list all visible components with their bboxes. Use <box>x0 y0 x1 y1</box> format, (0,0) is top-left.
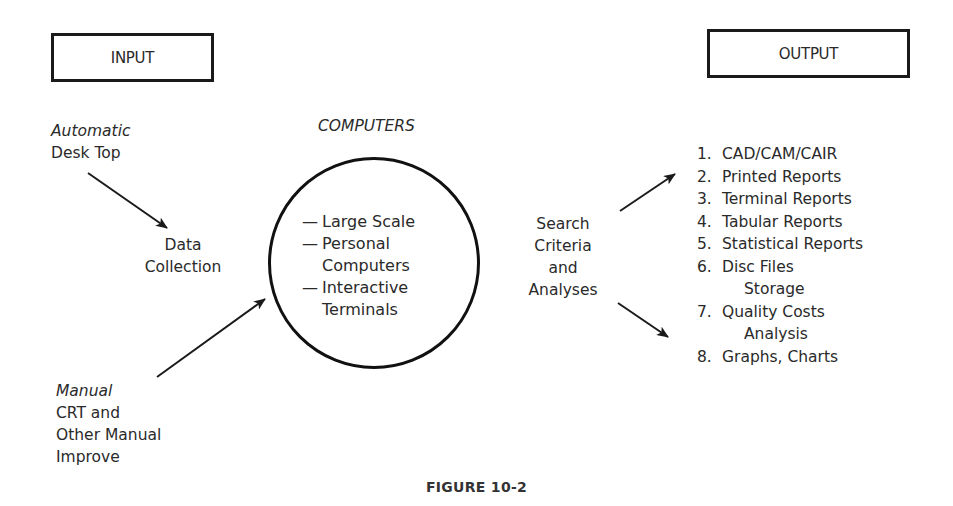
output-list: 1.CAD/CAM/CAIR 2.Printed Reports 3.Termi… <box>697 143 863 368</box>
search-line4: Analyses <box>510 279 616 301</box>
search-line3: and <box>510 257 616 279</box>
computers-item: —Interactive <box>302 277 415 299</box>
output-item-number: 3. <box>697 188 722 211</box>
output-item: 7.Quality Costs <box>697 301 863 324</box>
computers-item: —Large Scale <box>302 211 415 233</box>
automatic-input-label: Automatic Desk Top <box>51 120 131 164</box>
computers-list: —Large Scale —Personal Computers —Intera… <box>302 211 415 321</box>
computers-item-continuation: Computers <box>302 255 415 277</box>
output-item-number: 6. <box>697 256 722 279</box>
data-collection-label: Data Collection <box>128 234 238 278</box>
output-item-label: Terminal Reports <box>722 190 852 208</box>
output-item-label: Statistical Reports <box>722 235 863 253</box>
computers-item-label: Interactive <box>322 278 408 297</box>
search-line1: Search <box>510 213 616 235</box>
output-item-label: Disc Files <box>722 258 794 276</box>
computers-item-label: Large Scale <box>322 212 415 231</box>
dash-glyph: — <box>302 211 322 233</box>
manual-line2: Other Manual <box>56 424 161 446</box>
output-item-number: 4. <box>697 211 722 234</box>
output-item: 5.Statistical Reports <box>697 233 863 256</box>
computers-item-label: Personal <box>322 234 390 253</box>
computers-title: COMPUTERS <box>318 115 415 137</box>
figure-caption: FIGURE 10-2 <box>0 479 953 495</box>
manual-mode: Manual <box>56 380 161 402</box>
computers-item-continuation-label: Computers <box>322 256 410 275</box>
automatic-mode: Automatic <box>51 120 131 142</box>
dash-glyph: — <box>302 233 322 255</box>
manual-line3: Improve <box>56 446 161 468</box>
output-item-continuation-label: Storage <box>744 280 805 298</box>
arrow-search-to-outputs-upper-icon <box>620 174 675 211</box>
arrow-manual-to-computers-icon <box>157 299 265 377</box>
output-item-number: 7. <box>697 301 722 324</box>
manual-input-label: Manual CRT and Other Manual Improve <box>56 380 161 468</box>
output-item-label: Quality Costs <box>722 303 825 321</box>
output-item: 3.Terminal Reports <box>697 188 863 211</box>
search-line2: Criteria <box>510 235 616 257</box>
output-box: OUTPUT <box>707 29 910 78</box>
arrow-automatic-to-data-collection-icon <box>88 173 167 228</box>
output-item-number: 5. <box>697 233 722 256</box>
automatic-source: Desk Top <box>51 142 131 164</box>
computers-item-continuation-label: Terminals <box>322 300 398 319</box>
input-box-label: INPUT <box>111 49 154 67</box>
output-item: 6.Disc Files <box>697 256 863 279</box>
output-item-label: CAD/CAM/CAIR <box>722 145 837 163</box>
output-item-label: Tabular Reports <box>722 213 843 231</box>
computers-item-continuation: Terminals <box>302 299 415 321</box>
output-item-continuation: Analysis <box>697 323 863 346</box>
output-item-number: 2. <box>697 166 722 189</box>
output-item-label: Printed Reports <box>722 168 841 186</box>
output-item-continuation-label: Analysis <box>744 325 808 343</box>
computers-item: —Personal <box>302 233 415 255</box>
arrow-search-to-outputs-lower-icon <box>618 303 668 337</box>
output-item-number: 8. <box>697 346 722 369</box>
output-item: 4.Tabular Reports <box>697 211 863 234</box>
search-criteria-label: Search Criteria and Analyses <box>510 213 616 301</box>
data-collection-line1: Data <box>128 234 238 256</box>
dash-glyph: — <box>302 277 322 299</box>
manual-line1: CRT and <box>56 402 161 424</box>
output-item: 2.Printed Reports <box>697 166 863 189</box>
input-box: INPUT <box>51 33 214 82</box>
output-item: 8.Graphs, Charts <box>697 346 863 369</box>
output-item-continuation: Storage <box>697 278 863 301</box>
output-box-label: OUTPUT <box>779 45 838 63</box>
data-collection-line2: Collection <box>128 256 238 278</box>
output-item-label: Graphs, Charts <box>722 348 838 366</box>
output-item: 1.CAD/CAM/CAIR <box>697 143 863 166</box>
output-item-number: 1. <box>697 143 722 166</box>
